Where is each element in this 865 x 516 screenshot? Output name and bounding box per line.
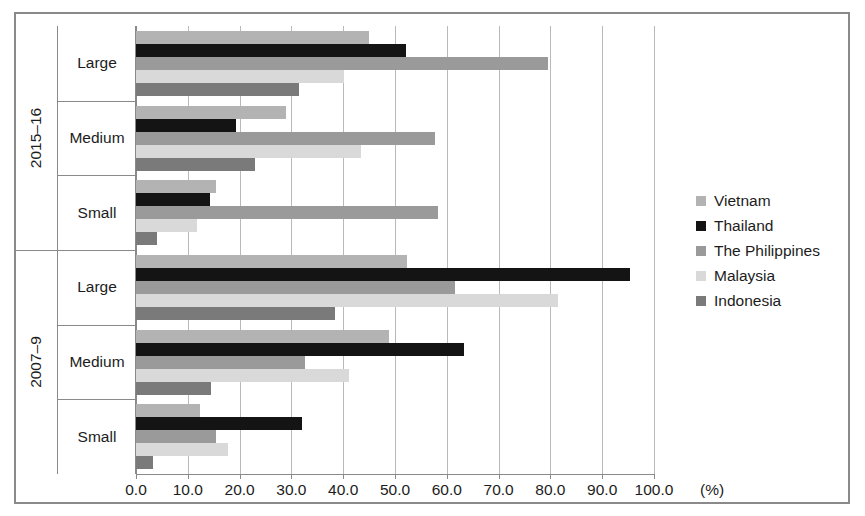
bar-malaysia-20079-large — [136, 294, 558, 307]
bar-thailand-201516-medium — [136, 119, 236, 132]
category-axis: LargeMediumSmallLargeMediumSmall — [58, 26, 136, 474]
bar-indonesia-20079-small — [136, 456, 153, 469]
legend-label: The Philippines — [714, 242, 820, 260]
bar-vietnam-20079-small — [136, 404, 200, 417]
bar-thailand-201516-large — [136, 44, 406, 57]
bar-vietnam-201516-small — [136, 180, 216, 193]
bar-thailand-20079-large — [136, 268, 630, 281]
bar-vietnam-20079-medium — [136, 330, 389, 343]
bar-the-philippines-20079-small — [136, 430, 216, 443]
category-separator — [58, 325, 136, 326]
legend-item-malaysia[interactable]: Malaysia — [696, 263, 846, 288]
bar-malaysia-20079-small — [136, 443, 228, 456]
bar-indonesia-201516-medium — [136, 158, 255, 171]
category-label-large-201516: Large — [58, 26, 136, 101]
bar-indonesia-20079-large — [136, 307, 335, 320]
x-tick-30 — [291, 474, 292, 479]
x-tick-label-80: 80.0 — [535, 481, 565, 499]
x-tick-60 — [447, 474, 448, 479]
category-label-large-20079: Large — [58, 250, 136, 325]
bar-thailand-20079-medium — [136, 343, 464, 356]
bar-indonesia-20079-medium — [136, 382, 211, 395]
category-separator — [58, 250, 136, 251]
x-tick-100 — [654, 474, 655, 479]
chart-figure: 2015–162007–9 LargeMediumSmallLargeMediu… — [0, 0, 865, 516]
x-tick-label-100: 100.0 — [635, 481, 674, 499]
x-tick-0 — [136, 474, 137, 479]
x-tick-label-60: 60.0 — [432, 481, 462, 499]
x-axis-unit-label: (%) — [700, 481, 724, 499]
legend-label: Thailand — [714, 217, 773, 235]
bar-vietnam-201516-large — [136, 31, 369, 44]
category-separator — [58, 101, 136, 102]
group-label-20079: 2007–9 — [14, 250, 58, 474]
x-axis-tick-labels: 0.010.020.030.040.050.060.070.080.090.01… — [0, 481, 865, 509]
category-label-medium-201516: Medium — [58, 101, 136, 176]
x-tick-label-10: 10.0 — [173, 481, 203, 499]
group-label-text: 2007–9 — [27, 336, 45, 388]
legend-label: Malaysia — [714, 267, 775, 285]
group-label-text: 2015–16 — [27, 108, 45, 168]
x-tick-label-30: 30.0 — [276, 481, 306, 499]
category-label-small-201516: Small — [58, 175, 136, 250]
x-tick-label-70: 70.0 — [484, 481, 514, 499]
legend-swatch-icon — [696, 271, 706, 281]
gridline-50 — [395, 26, 396, 474]
category-label-small-20079: Small — [58, 399, 136, 474]
bar-malaysia-201516-large — [136, 70, 344, 83]
legend-item-vietnam[interactable]: Vietnam — [696, 188, 846, 213]
category-label-medium-20079: Medium — [58, 325, 136, 400]
x-tick-label-20: 20.0 — [225, 481, 255, 499]
legend-label: Vietnam — [714, 192, 771, 210]
bar-indonesia-201516-large — [136, 83, 299, 96]
gridline-60 — [447, 26, 448, 474]
category-separator — [58, 175, 136, 176]
bar-the-philippines-201516-medium — [136, 132, 435, 145]
legend-item-indonesia[interactable]: Indonesia — [696, 288, 846, 313]
group-axis: 2015–162007–9 — [14, 26, 58, 474]
x-tick-40 — [343, 474, 344, 479]
category-separator — [58, 399, 136, 400]
x-tick-label-40: 40.0 — [328, 481, 358, 499]
x-tick-80 — [550, 474, 551, 479]
bar-thailand-20079-small — [136, 417, 302, 430]
group-separator — [14, 250, 58, 251]
x-tick-label-0: 0.0 — [125, 481, 147, 499]
bar-malaysia-201516-medium — [136, 145, 361, 158]
bar-the-philippines-20079-medium — [136, 356, 305, 369]
bar-malaysia-20079-medium — [136, 369, 349, 382]
bar-the-philippines-201516-large — [136, 57, 548, 70]
x-tick-label-90: 90.0 — [587, 481, 617, 499]
group-label-201516: 2015–16 — [14, 26, 58, 250]
x-tick-10 — [188, 474, 189, 479]
gridline-40 — [343, 26, 344, 474]
legend-swatch-icon — [696, 221, 706, 231]
legend-swatch-icon — [696, 246, 706, 256]
bar-indonesia-201516-small — [136, 232, 157, 245]
gridline-100 — [654, 26, 655, 474]
legend-swatch-icon — [696, 296, 706, 306]
bar-vietnam-20079-large — [136, 255, 407, 268]
x-tick-70 — [499, 474, 500, 479]
chart-legend: VietnamThailandThe PhilippinesMalaysiaIn… — [696, 188, 846, 313]
x-tick-50 — [395, 474, 396, 479]
bar-thailand-201516-small — [136, 193, 210, 206]
legend-label: Indonesia — [714, 292, 781, 310]
gridline-80 — [550, 26, 551, 474]
legend-item-thailand[interactable]: Thailand — [696, 213, 846, 238]
legend-item-the-philippines[interactable]: The Philippines — [696, 238, 846, 263]
plot-area — [136, 26, 654, 474]
x-tick-90 — [602, 474, 603, 479]
x-tick-label-50: 50.0 — [380, 481, 410, 499]
gridline-70 — [499, 26, 500, 474]
bar-malaysia-201516-small — [136, 219, 197, 232]
bar-the-philippines-201516-small — [136, 206, 438, 219]
bar-vietnam-201516-medium — [136, 106, 286, 119]
legend-swatch-icon — [696, 196, 706, 206]
bar-the-philippines-20079-large — [136, 281, 455, 294]
gridline-90 — [602, 26, 603, 474]
x-tick-20 — [240, 474, 241, 479]
